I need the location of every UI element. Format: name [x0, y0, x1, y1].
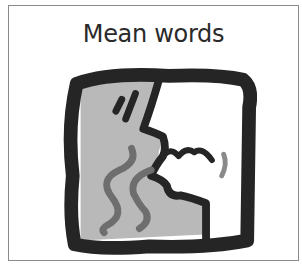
card-title: Mean words	[9, 20, 298, 48]
pictogram-card: Mean words	[8, 5, 299, 261]
mean-words-face-icon	[61, 68, 257, 264]
